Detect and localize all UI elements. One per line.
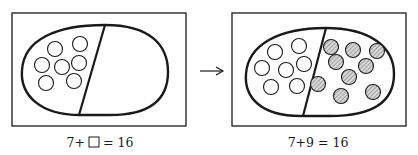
empty-circle (48, 42, 63, 57)
empty-circle (35, 58, 50, 73)
hatched-circle (366, 85, 381, 100)
equation-after: 7+9 = 16 (288, 135, 349, 150)
unknown-box (89, 137, 99, 147)
known-circles (35, 37, 88, 91)
empty-circle (72, 56, 87, 71)
empty-circle (268, 45, 283, 60)
hatched-circle (311, 77, 326, 92)
empty-circle (292, 39, 307, 54)
empty-circle (290, 79, 305, 94)
diagram: 7+ = 16 7+9 = 16 (0, 0, 418, 155)
hatched-circle (359, 59, 374, 74)
panel-after: 7+9 = 16 (232, 13, 406, 150)
right-arrow-icon (200, 67, 223, 75)
hatched-circle (370, 44, 385, 59)
empty-circle (279, 63, 294, 78)
empty-circle (39, 76, 54, 91)
panel-before: 7+ = 16 (12, 13, 186, 150)
empty-circle (55, 60, 70, 75)
hatched-circle (329, 55, 344, 70)
empty-circle (264, 80, 279, 95)
hatched-circle (346, 43, 361, 58)
divider-line (303, 28, 326, 116)
hatched-circle (324, 40, 339, 55)
empty-circle (297, 57, 312, 72)
empty-circle (73, 37, 88, 52)
equation-before: 7+ = 16 (67, 135, 134, 150)
hatched-circle (342, 70, 357, 85)
known-circles (255, 39, 312, 95)
hatched-circle (334, 89, 349, 104)
empty-circle (67, 74, 82, 89)
empty-circle (255, 61, 270, 76)
